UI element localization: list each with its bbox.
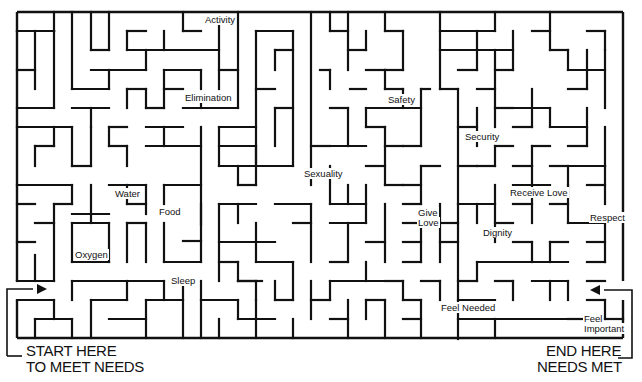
label-sleep: Sleep xyxy=(170,275,196,286)
label-security: Security xyxy=(464,131,500,142)
label-receive-love: Receive Love xyxy=(509,187,569,198)
label-give-love-2: Love xyxy=(417,217,440,228)
label-food: Food xyxy=(158,206,182,217)
label-feel-needed: Feel Needed xyxy=(440,302,496,313)
label-feel-important-2: Important xyxy=(583,323,625,334)
label-water: Water xyxy=(114,188,141,199)
end-label-line1: END HERE xyxy=(546,342,621,359)
end-label-line2: NEEDS MET xyxy=(537,358,622,375)
label-activity: Activity xyxy=(204,14,236,25)
left-arrow-icon xyxy=(590,285,600,295)
label-sexuality: Sexuality xyxy=(303,168,344,179)
right-arrow-icon xyxy=(37,284,47,294)
label-safety: Safety xyxy=(387,94,416,105)
start-label-line1: START HERE xyxy=(26,342,116,359)
label-dignity: Dignity xyxy=(482,227,513,238)
label-respect: Respect xyxy=(589,212,626,223)
label-oxygen: Oxygen xyxy=(74,249,109,260)
label-elimination: Elimination xyxy=(184,92,232,103)
start-label-line2: TO MEET NEEDS xyxy=(26,358,144,375)
